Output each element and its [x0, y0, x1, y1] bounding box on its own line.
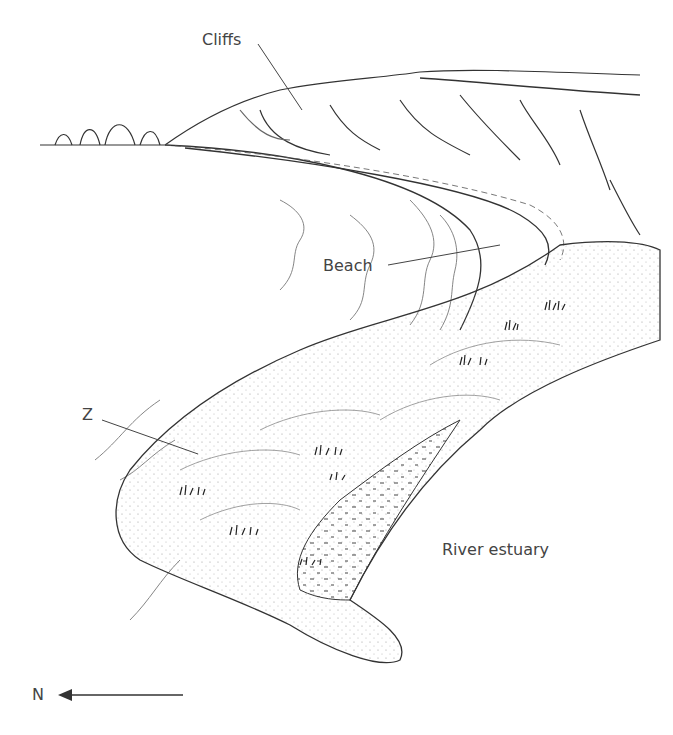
- beach-leader-line: [388, 245, 500, 265]
- cliffs-leader-line: [258, 44, 302, 110]
- spit-z-shape: [116, 242, 660, 663]
- cliffs-shape: [40, 70, 640, 235]
- label-north: N: [32, 685, 44, 704]
- label-beach: Beach: [323, 256, 373, 275]
- label-river-estuary: River estuary: [442, 540, 549, 559]
- coastal-sketch: [0, 0, 673, 735]
- north-arrow-icon: [58, 689, 183, 701]
- label-cliffs: Cliffs: [202, 30, 241, 49]
- label-z: Z: [82, 405, 93, 424]
